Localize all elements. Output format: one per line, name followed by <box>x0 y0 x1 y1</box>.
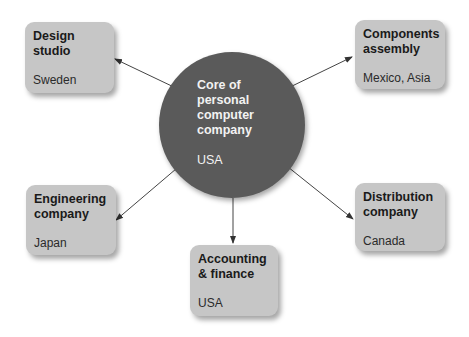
node-location: Japan <box>34 236 108 250</box>
node-design-studio: Design studio Sweden <box>25 22 114 93</box>
node-title: Components assembly <box>363 27 437 57</box>
center-title: Core of personal computer company <box>197 78 305 138</box>
node-title: Accounting & finance <box>198 252 270 282</box>
node-location: Sweden <box>33 73 106 87</box>
node-accounting-finance: Accounting & finance USA <box>190 245 278 316</box>
node-title: Design studio <box>33 29 106 59</box>
node-distribution-company: Distribution company Canada <box>355 183 445 251</box>
node-components-assembly: Components assembly Mexico, Asia <box>355 20 445 89</box>
center-node: Core of personal computer company USA <box>159 52 305 198</box>
node-location: USA <box>198 296 270 310</box>
arrow-to-design <box>115 59 178 89</box>
arrow-to-distribution <box>283 163 353 219</box>
node-title: Engineering company <box>34 192 108 222</box>
node-location: Canada <box>363 234 437 248</box>
node-title: Distribution company <box>363 190 437 220</box>
arrow-to-engineering <box>116 163 183 220</box>
node-engineering-company: Engineering company Japan <box>26 185 116 255</box>
center-location: USA <box>197 153 305 167</box>
node-location: Mexico, Asia <box>363 71 437 85</box>
